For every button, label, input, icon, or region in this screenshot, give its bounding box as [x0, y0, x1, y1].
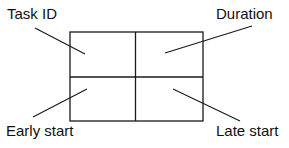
- leader-duration: [165, 26, 252, 53]
- label-early-start: Early start: [6, 122, 74, 139]
- label-late-start: Late start: [216, 122, 279, 139]
- leader-late-start: [173, 89, 240, 121]
- label-duration: Duration: [216, 5, 273, 22]
- leader-early-start: [33, 89, 87, 117]
- label-task-id: Task ID: [7, 5, 57, 22]
